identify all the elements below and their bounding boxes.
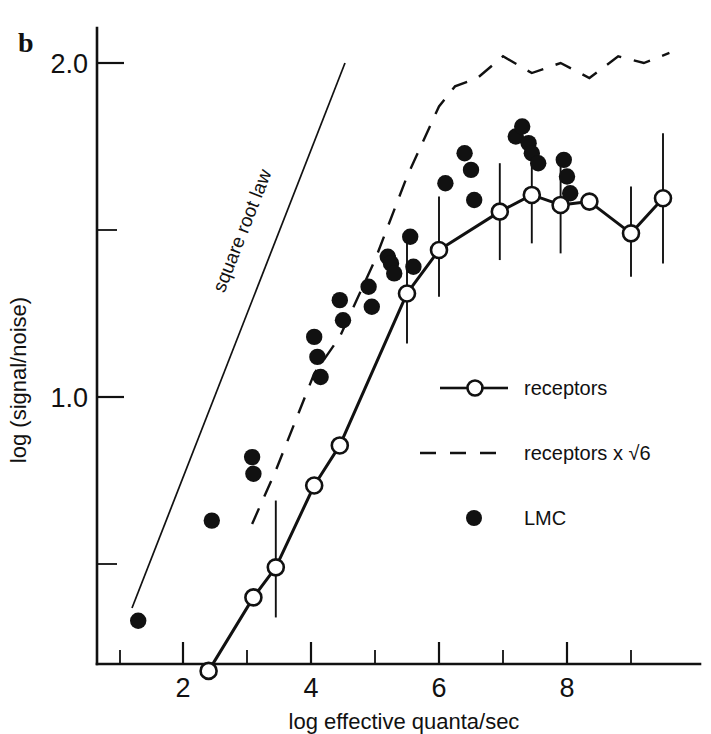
lmc-data-point (130, 613, 146, 629)
lmc-data-point (559, 168, 575, 184)
lmc-data-point (514, 118, 530, 134)
lmc-data-point (335, 312, 351, 328)
receptor-data-point (245, 589, 261, 605)
y-axis-ticks (97, 63, 124, 564)
lmc-data-point (312, 369, 328, 385)
legend-label-receptors-sqrt6: receptors x √6 (524, 442, 651, 464)
x-ticklabel-8: 8 (559, 673, 574, 703)
lmc-data-point (364, 299, 380, 315)
lmc-data-point (332, 292, 348, 308)
x-ticklabel-4: 4 (303, 673, 318, 703)
series-receptors (201, 133, 671, 679)
lmc-data-point (466, 192, 482, 208)
x-ticklabel-6: 6 (431, 673, 446, 703)
lmc-data-point (556, 152, 572, 168)
y-ticklabel-2.0: 2.0 (50, 49, 88, 79)
axes-group (97, 28, 700, 664)
plot-data-layer (130, 53, 671, 679)
receptor-data-point (399, 285, 415, 301)
x-axis-ticks (120, 642, 631, 664)
x-axis-title: log effective quanta/sec (289, 709, 520, 734)
receptor-data-point (431, 242, 447, 258)
lmc-data-point (245, 466, 261, 482)
solid-curve (209, 195, 663, 671)
lmc-data-point (463, 162, 479, 178)
y-axis-title: log (signal/noise) (6, 297, 31, 463)
receptor-data-point (332, 437, 348, 453)
legend-filled-circle-icon (466, 510, 482, 526)
lmc-data-point (244, 449, 260, 465)
receptor-data-point (623, 225, 639, 241)
lmc-data-point (360, 279, 376, 295)
signal-noise-chart: b 2.0 1.0 2 4 6 8 (0, 0, 711, 734)
receptor-data-point (655, 190, 671, 206)
x-ticklabel-2: 2 (175, 673, 190, 703)
legend-entry-receptors: receptors (440, 377, 607, 399)
lmc-data-point (402, 228, 418, 244)
lmc-data-point (386, 265, 402, 281)
lmc-data-point (306, 329, 322, 345)
y-ticklabel-1.0: 1.0 (50, 383, 88, 413)
square-root-law-label: square root law (208, 166, 275, 295)
series-lmc (130, 118, 578, 629)
receptor-data-point (201, 663, 217, 679)
legend-label-receptors: receptors (524, 377, 607, 399)
lmc-data-point (562, 185, 578, 201)
lmc-data-point (309, 349, 325, 365)
lmc-data-point (456, 145, 472, 161)
legend-entry-receptors-sqrt6: receptors x √6 (420, 442, 651, 464)
legend-label-lmc: LMC (524, 507, 566, 529)
figure-container: b 2.0 1.0 2 4 6 8 (0, 0, 711, 734)
lmc-data-point (530, 155, 546, 171)
panel-letter: b (18, 27, 34, 58)
legend-entry-lmc: LMC (466, 507, 566, 529)
receptor-data-point (268, 559, 284, 575)
legend-open-circle-icon (468, 381, 483, 396)
legend: receptors receptors x √6 LMC (420, 377, 651, 529)
receptor-data-point (306, 478, 322, 494)
receptor-data-point (524, 187, 540, 203)
lmc-data-point (204, 512, 220, 528)
lmc-data-point (405, 259, 421, 275)
lmc-data-point (437, 175, 453, 191)
receptor-data-point (581, 194, 597, 210)
receptor-data-point (492, 204, 508, 220)
